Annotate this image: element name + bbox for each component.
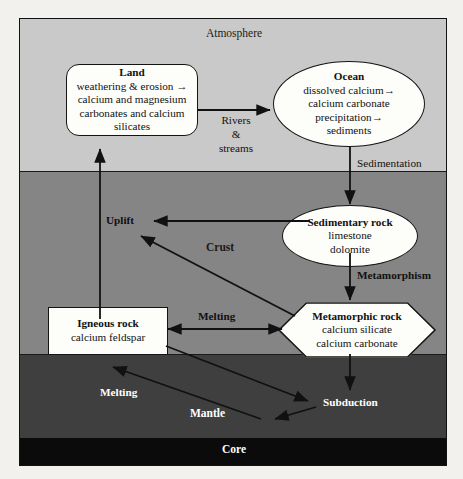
- node-metamorphic-rock-line-2: calcium carbonate: [312, 337, 402, 351]
- label-subduction: Subduction: [323, 396, 378, 408]
- node-ocean-line-2: calcium carbonate: [308, 97, 390, 111]
- label-rivers-streams-line-3: streams: [206, 141, 266, 155]
- node-sedimentary-rock-line-2: dolomite: [330, 243, 370, 257]
- label-melting-mantle: Melting: [100, 386, 137, 398]
- label-rivers-streams-line-1: Rivers: [206, 113, 266, 127]
- node-metamorphic-rock-text: Metamorphic rock calcium silicate calciu…: [312, 310, 402, 351]
- node-sedimentary-rock[interactable]: Sedimentary rock limestone dolomite: [282, 205, 418, 267]
- label-metamorphism: Metamorphism: [357, 269, 431, 281]
- node-ocean-line-1: dissolved calcium→: [303, 84, 395, 98]
- node-ocean-line-3: precipitation→: [315, 111, 383, 125]
- rock-cycle-diagram: Atmosphere Crust Mantle Core: [19, 18, 447, 466]
- node-ocean-title: Ocean: [334, 70, 364, 84]
- node-land-line-3: carbonates and calcium: [80, 107, 185, 121]
- node-metamorphic-rock[interactable]: Metamorphic rock calcium silicate calciu…: [278, 302, 436, 358]
- layer-label-mantle: Mantle: [190, 407, 225, 419]
- layer-label-core: Core: [20, 443, 447, 455]
- label-rivers-streams-line-2: &: [206, 127, 266, 141]
- node-land-line-1: weathering & erosion →: [77, 80, 188, 94]
- node-metamorphic-rock-line-1: calcium silicate: [312, 323, 402, 337]
- node-land-title: Land: [119, 66, 145, 80]
- node-land-line-4: silicates: [114, 120, 150, 134]
- node-ocean-line-4: sediments: [327, 124, 372, 138]
- label-sedimentation: Sedimentation: [357, 157, 422, 169]
- layer-mantle: [20, 354, 446, 438]
- node-ocean[interactable]: Ocean dissolved calcium→ calcium carbona…: [273, 61, 425, 147]
- node-sedimentary-rock-title: Sedimentary rock: [307, 216, 392, 230]
- node-metamorphic-rock-title: Metamorphic rock: [312, 310, 402, 324]
- node-land-line-2: calcium and magnesium: [78, 93, 187, 107]
- node-igneous-rock[interactable]: Igneous rock calcium feldspar: [48, 307, 168, 355]
- node-land[interactable]: Land weathering & erosion → calcium and …: [66, 64, 198, 136]
- node-sedimentary-rock-line-1: limestone: [328, 229, 372, 243]
- node-igneous-rock-line-1: calcium feldspar: [71, 331, 145, 345]
- layer-label-atmosphere: Atmosphere: [20, 27, 447, 39]
- label-melting-crust: Melting: [198, 310, 235, 322]
- label-uplift: Uplift: [106, 214, 134, 226]
- label-rivers-streams: Rivers & streams: [206, 113, 266, 155]
- layer-label-crust: Crust: [206, 241, 234, 253]
- diagram-canvas: Atmosphere Crust Mantle Core: [0, 0, 463, 479]
- node-igneous-rock-title: Igneous rock: [77, 317, 139, 331]
